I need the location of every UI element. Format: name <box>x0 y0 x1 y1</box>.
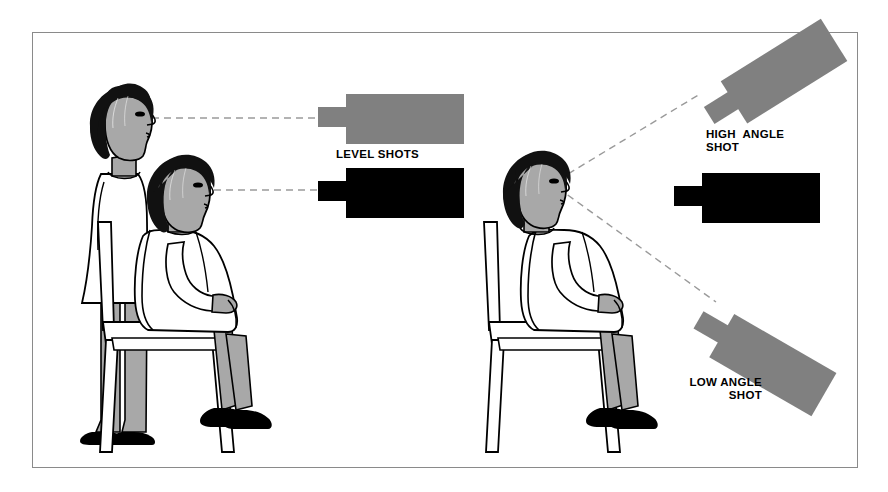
camera-level-seated <box>318 168 464 218</box>
seated-girl-right <box>503 151 658 429</box>
sight-line-high <box>558 94 700 180</box>
camera-level-standing <box>318 94 464 144</box>
label-level-shots: LEVEL SHOTS <box>336 148 419 161</box>
diagram-canvas: LEVEL SHOTS HIGH ANGLE SHOT LOW ANGLE SH… <box>0 0 888 492</box>
camera-angle-illustration <box>0 0 888 492</box>
seated-girl-left <box>135 155 272 429</box>
camera-level-right <box>674 173 820 223</box>
camera-high-angle <box>697 19 847 139</box>
label-low-angle-shot: LOW ANGLE SHOT <box>676 376 762 401</box>
label-high-angle-shot: HIGH ANGLE SHOT <box>706 128 784 153</box>
